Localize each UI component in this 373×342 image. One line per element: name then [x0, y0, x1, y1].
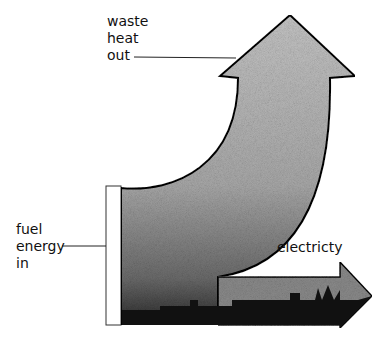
electricity-label: electricty [277, 239, 342, 256]
waste-heat-leader [134, 57, 236, 58]
fuel-energy-label: fuel energy in [16, 221, 65, 272]
fuel-energy-line-3: in [16, 255, 65, 272]
waste-heat-label: waste heat out [107, 13, 148, 64]
waste-heat-line-2: heat [107, 30, 148, 47]
waste-heat-line-3: out [107, 47, 148, 64]
fuel-energy-line-2: energy [16, 238, 65, 255]
fuel-energy-line-1: fuel [16, 221, 65, 238]
fuel-input-bar [106, 186, 121, 325]
waste-heat-line-1: waste [107, 13, 148, 30]
energy-flow-diagram [0, 0, 373, 342]
